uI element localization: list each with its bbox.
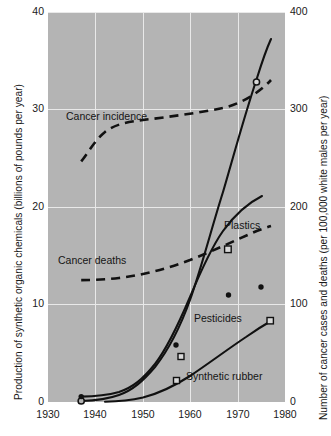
series-label-plastics: Plastics <box>224 219 260 231</box>
series-label-pesticides: Pesticides <box>194 312 242 324</box>
xtick-label-1940: 1940 <box>75 409 115 420</box>
y2tick-label-400: 400 <box>290 6 320 17</box>
marker-pesticides-1937 <box>79 394 84 399</box>
xtick-label-1960: 1960 <box>170 409 210 420</box>
marker-plastics-1958 <box>178 354 184 360</box>
y-axis-title-right: Number of cancer cases and deaths (per 1… <box>318 96 329 420</box>
y-axis-title-left: Production of synthetic organic chemical… <box>13 84 24 400</box>
series-label-synthetic-rubber: Synthetic rubber <box>186 370 262 382</box>
marker-plastics-1974 <box>253 79 259 85</box>
xtick-label-1950: 1950 <box>123 409 163 420</box>
xtick-label-1980: 1980 <box>265 409 305 420</box>
chart-figure: Cancer incidence Cancer deaths Plastics … <box>0 0 331 436</box>
marker-pesticides-1974 <box>258 284 263 289</box>
marker-synthetic-rubber-1974 <box>267 318 273 324</box>
marker-synthetic-rubber-1958 <box>174 378 180 384</box>
ytick-label-40: 40 <box>18 6 44 17</box>
plot-area: Cancer incidence Cancer deaths Plastics … <box>48 12 285 402</box>
marker-pesticides-1968 <box>226 292 231 297</box>
y2tick-label-100: 100 <box>290 298 320 309</box>
y2tick-label-300: 300 <box>290 103 320 114</box>
xtick-label-1970: 1970 <box>218 409 258 420</box>
data-curves <box>48 12 285 402</box>
series-label-cancer-incidence: Cancer incidence <box>66 110 147 122</box>
marker-plastics-1968 <box>225 246 232 253</box>
y2tick-label-200: 200 <box>290 201 320 212</box>
series-label-cancer-deaths: Cancer deaths <box>58 254 126 266</box>
marker-pesticides-1958 <box>173 342 178 347</box>
xtick-label-1930: 1930 <box>28 409 68 420</box>
y2tick-label-0: 0 <box>290 396 320 407</box>
